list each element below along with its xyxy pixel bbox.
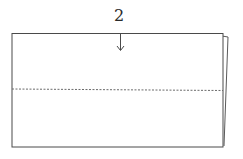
fold-diagram — [0, 0, 243, 159]
